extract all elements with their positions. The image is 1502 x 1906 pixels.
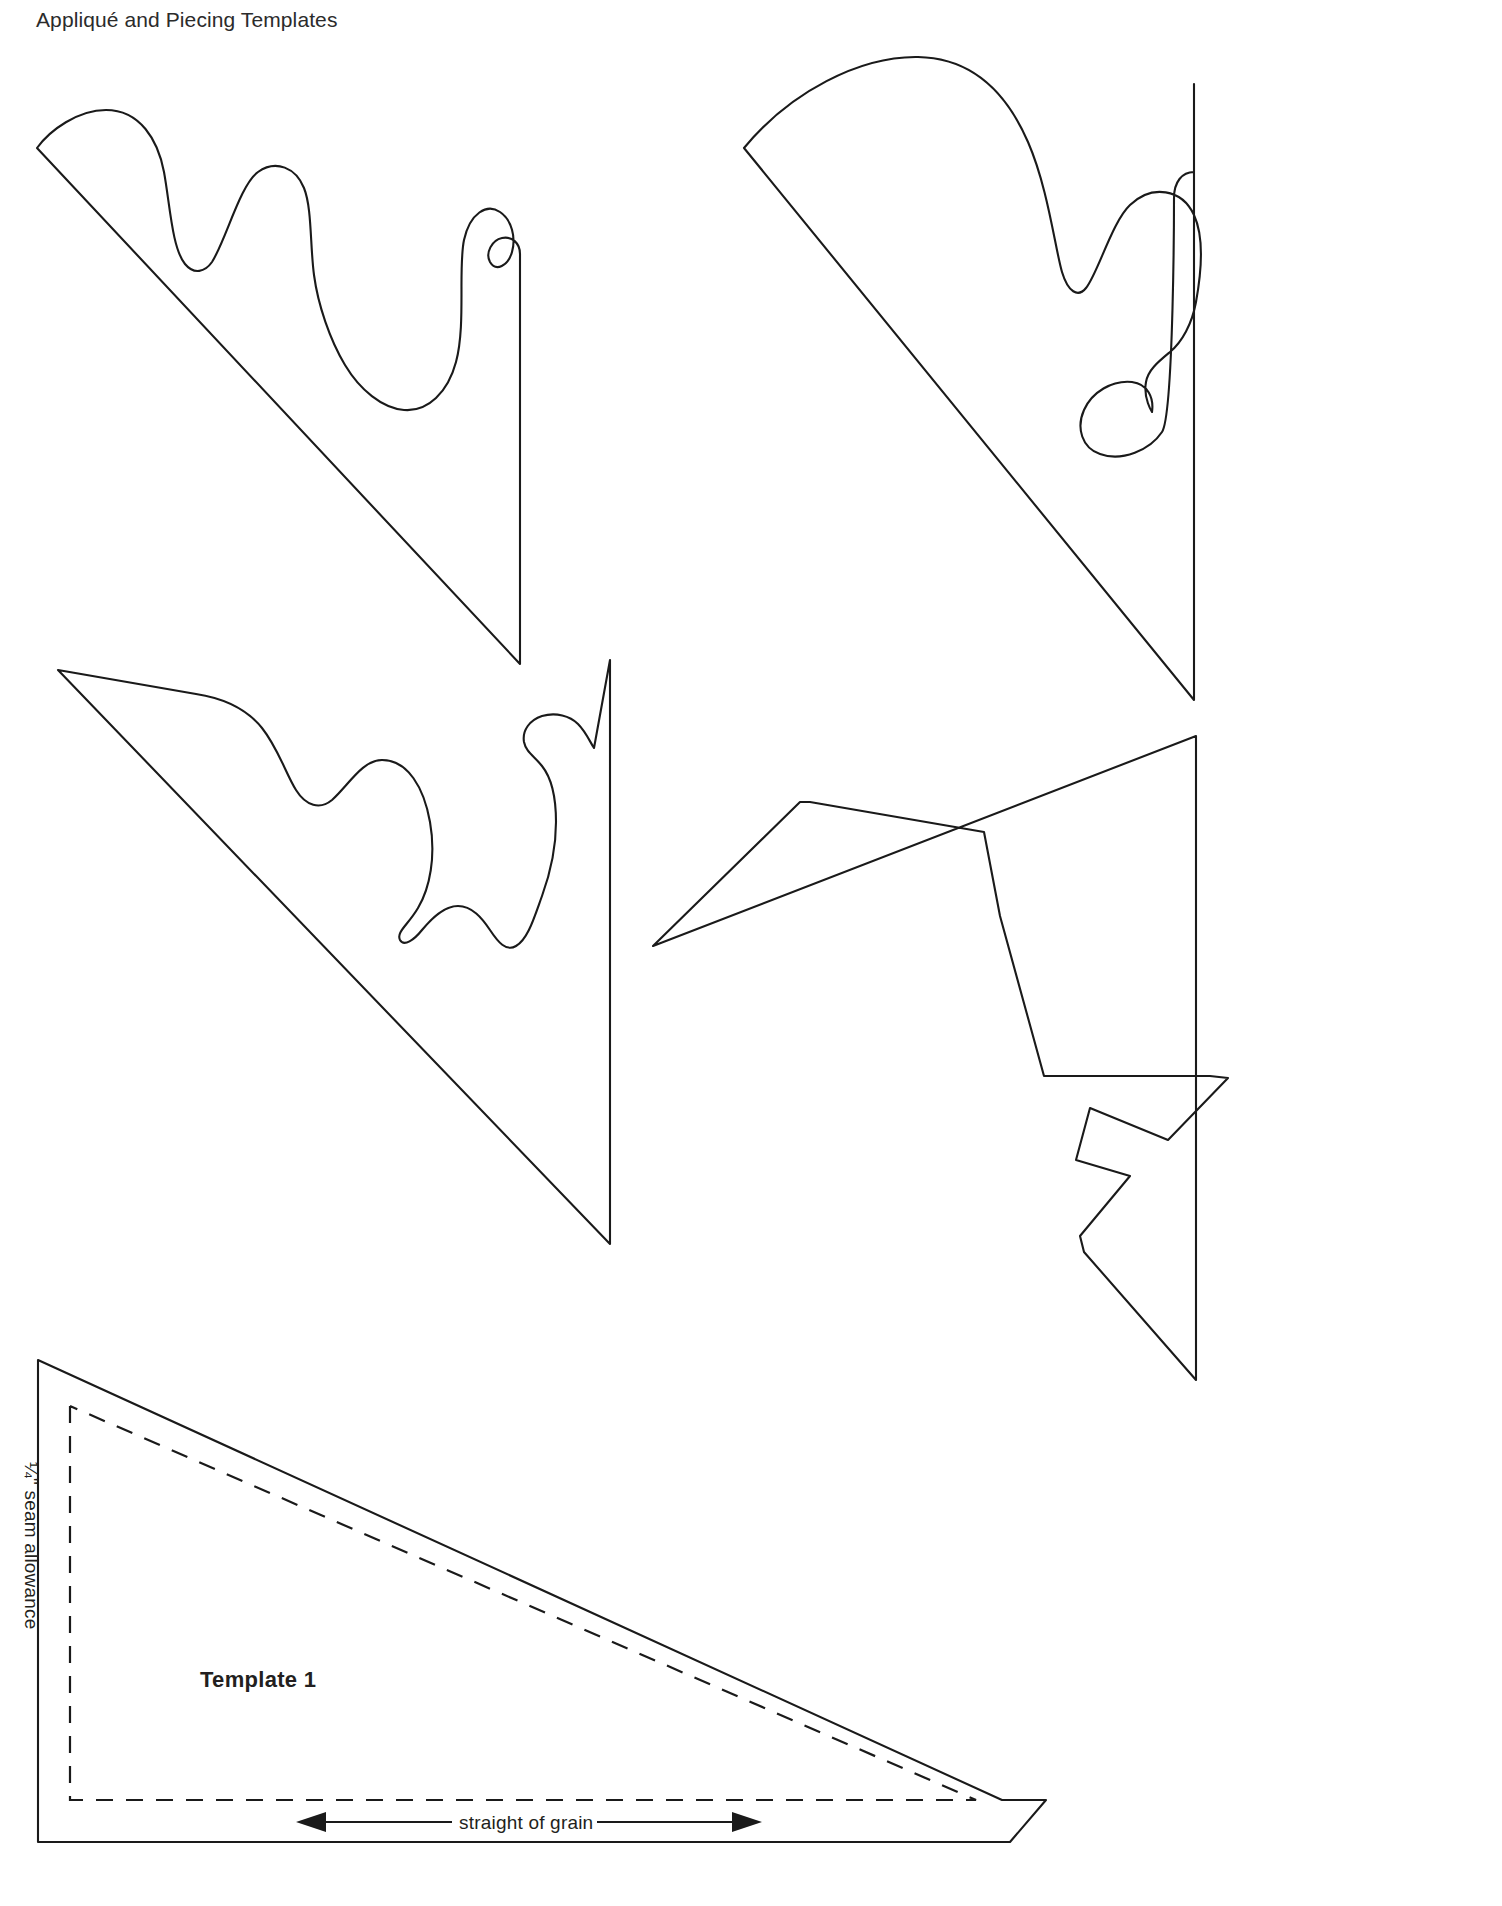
template-sheet-page: Appliqué and Piecing Templates xyxy=(0,0,1502,1906)
template-top-right-outline xyxy=(744,57,1201,700)
template-top-right xyxy=(744,57,1201,700)
template-mid-left xyxy=(58,660,610,1244)
template-1-name-label: Template 1 xyxy=(200,1667,316,1693)
templates-illustration xyxy=(0,0,1502,1906)
template-1-bottom xyxy=(38,1360,1046,1842)
template-top-left xyxy=(37,110,520,664)
straight-of-grain-label: straight of grain xyxy=(455,1812,597,1834)
template-top-left-outline xyxy=(37,110,520,664)
seam-allowance-label: ¼" seam allowance xyxy=(20,1462,42,1732)
template-mid-left-outline xyxy=(58,660,610,1244)
template-mid-right-outline xyxy=(653,736,1228,1380)
template-mid-right xyxy=(653,736,1228,1380)
template-1-outline xyxy=(38,1360,1046,1842)
